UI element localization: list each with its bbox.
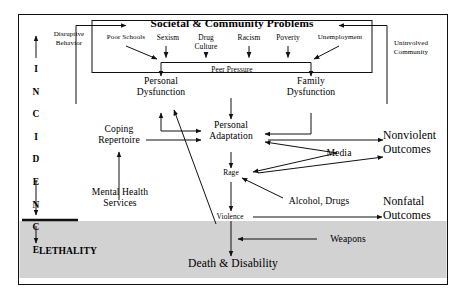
incidence-axis-label: INCIDENCE xyxy=(29,64,43,154)
node-personal-dysfunction-line1: Personal xyxy=(126,76,196,86)
societal-problems-title: Societal & Community Problems xyxy=(142,18,322,30)
incidence-letter-3: I xyxy=(29,132,43,142)
incidence-letter-1: N xyxy=(29,87,43,97)
incidence-letter-5: E xyxy=(29,177,43,187)
family-dysfunction-to-adaptation xyxy=(265,113,311,134)
node-death-disability: Death & Disability xyxy=(166,258,300,270)
node-racism: Racism xyxy=(229,34,269,42)
node-media: Media xyxy=(317,148,361,158)
node-lethality: LETHALITY xyxy=(39,246,119,256)
node-family-dysfunction-line2: Dysfunction xyxy=(276,87,346,97)
node-nonfatal-outcomes-line2: Outcomes xyxy=(383,210,453,222)
unemployment-arrow xyxy=(314,46,339,59)
node-disruptive-behavior-line1: Disruptive xyxy=(41,31,97,38)
node-violence: Violence xyxy=(205,213,255,221)
incidence-letter-2: C xyxy=(29,109,43,119)
node-alcohol-drugs: Alcohol, Drugs xyxy=(279,196,359,206)
incidence-letter-7: C xyxy=(29,222,43,232)
node-poor-schools: Poor Schools xyxy=(96,34,156,41)
node-uninvolved-community-line2: Community xyxy=(381,49,441,56)
node-weapons: Weapons xyxy=(320,234,376,244)
node-nonfatal-outcomes-line1: Nonfatal xyxy=(383,196,453,208)
node-nonviolent-outcomes-line1: Nonviolent xyxy=(383,130,453,142)
node-coping-repertoire-line2: Repertoire xyxy=(84,135,154,145)
node-unemployment: Unemployment xyxy=(310,34,370,41)
incidence-letter-6: N xyxy=(29,200,43,210)
incidence-letter-0: I xyxy=(29,64,43,74)
node-nonviolent-outcomes-line2: Outcomes xyxy=(383,144,453,156)
incidence-letter-8: E xyxy=(29,245,43,255)
node-disruptive-behavior-line2: Behavior xyxy=(41,40,97,47)
diagram-root: Societal & Community Problems Poor Schoo… xyxy=(0,0,463,298)
node-peer-pressure: Peer Pressure xyxy=(202,66,262,74)
node-uninvolved-community-line1: Uninvolved xyxy=(381,40,441,47)
node-drug-culture-line1: Drug xyxy=(186,34,226,42)
node-mental-health-services-line1: Mental Health xyxy=(75,187,165,197)
node-personal-adaptation-line2: Adaptation xyxy=(196,131,266,141)
poor-schools-arrow xyxy=(126,46,157,59)
node-coping-repertoire-line1: Coping xyxy=(84,124,154,134)
alcohol-drugs-to-rage xyxy=(242,178,283,198)
node-sexism: Sexism xyxy=(148,34,188,42)
node-personal-dysfunction-line2: Dysfunction xyxy=(126,87,196,97)
node-personal-adaptation-line1: Personal xyxy=(196,120,266,130)
node-rage: Rage xyxy=(211,169,251,177)
incidence-letter-4: D xyxy=(29,154,43,164)
node-family-dysfunction-line1: Family xyxy=(276,76,346,86)
node-mental-health-services-line2: Services xyxy=(75,198,165,208)
node-poverty: Poverty xyxy=(268,34,308,42)
rage-to-nonviolent xyxy=(258,157,383,173)
node-drug-culture-line2: Culture xyxy=(186,43,226,51)
